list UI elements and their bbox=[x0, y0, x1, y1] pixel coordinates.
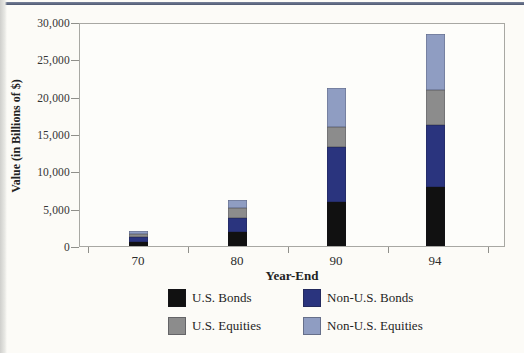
legend-item: U.S. Bonds bbox=[168, 288, 303, 307]
bar-segment bbox=[228, 218, 247, 232]
y-tick-label: 5,000 bbox=[4, 204, 70, 216]
y-tick-label: 25,000 bbox=[4, 54, 70, 66]
bar-segment bbox=[129, 234, 148, 237]
y-tick-mark bbox=[71, 60, 79, 61]
legend-item: U.S. Equities bbox=[168, 316, 303, 335]
stacked-bar-80 bbox=[228, 22, 247, 246]
legend-item: Non-U.S. Equities bbox=[303, 316, 423, 335]
stacked-bar-94 bbox=[426, 22, 445, 246]
stacked-bar-70 bbox=[129, 22, 148, 246]
y-tick-label: 30,000 bbox=[4, 17, 70, 29]
y-tick-mark bbox=[71, 135, 79, 136]
x-axis-title: Year-End bbox=[79, 268, 505, 284]
bar-segment bbox=[129, 237, 148, 242]
legend: U.S. BondsNon-U.S. BondsU.S. EquitiesNon… bbox=[168, 288, 423, 335]
stacked-bar-90 bbox=[327, 22, 346, 246]
x-tick-mark bbox=[288, 247, 289, 253]
bar-segment bbox=[228, 232, 247, 246]
bar-segment bbox=[228, 208, 247, 218]
x-category-label: 70 bbox=[118, 253, 158, 269]
bar-segment bbox=[129, 231, 148, 234]
y-tick-mark bbox=[71, 172, 79, 173]
x-category-label: 90 bbox=[316, 253, 356, 269]
legend-swatch bbox=[303, 317, 321, 335]
x-category-label: 94 bbox=[415, 253, 455, 269]
scanned-page: Value (in Billions of $) 05,00010,00015,… bbox=[0, 0, 524, 353]
y-tick-mark bbox=[71, 98, 79, 99]
x-tick-mark bbox=[488, 247, 489, 253]
legend-label: Non-U.S. Bonds bbox=[327, 290, 413, 306]
bars-layer bbox=[80, 24, 504, 246]
x-tick-mark bbox=[388, 247, 389, 253]
x-category-label: 80 bbox=[217, 253, 257, 269]
page-top-rule bbox=[0, 2, 524, 5]
bar-segment bbox=[228, 200, 247, 208]
bar-segment bbox=[327, 127, 346, 148]
y-tick-mark bbox=[71, 23, 79, 24]
legend-swatch bbox=[168, 289, 186, 307]
bar-segment bbox=[129, 242, 148, 246]
bar-segment bbox=[426, 125, 445, 187]
legend-item: Non-U.S. Bonds bbox=[303, 288, 423, 307]
x-tick-mark bbox=[188, 247, 189, 253]
plot-area bbox=[79, 23, 505, 247]
x-tick-mark bbox=[88, 247, 89, 253]
y-tick-label: 20,000 bbox=[4, 92, 70, 104]
bar-segment bbox=[426, 34, 445, 90]
y-tick-label: 0 bbox=[4, 241, 70, 253]
y-tick-label: 10,000 bbox=[4, 166, 70, 178]
bar-segment bbox=[426, 90, 445, 125]
bar-segment bbox=[327, 147, 346, 202]
y-tick-mark bbox=[71, 210, 79, 211]
legend-swatch bbox=[303, 289, 321, 307]
legend-label: U.S. Equities bbox=[192, 318, 261, 334]
bar-segment bbox=[327, 88, 346, 127]
legend-label: Non-U.S. Equities bbox=[327, 318, 423, 334]
y-tick-label: 15,000 bbox=[4, 129, 70, 141]
legend-swatch bbox=[168, 317, 186, 335]
legend-label: U.S. Bonds bbox=[192, 290, 252, 306]
bar-segment bbox=[327, 202, 346, 246]
bar-segment bbox=[426, 187, 445, 246]
y-tick-mark bbox=[71, 247, 79, 248]
